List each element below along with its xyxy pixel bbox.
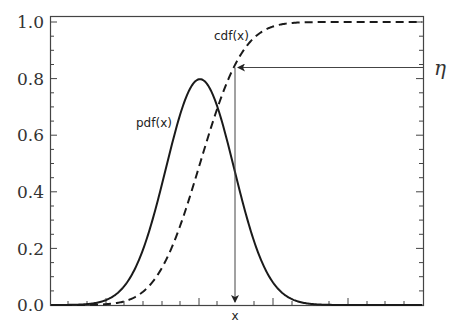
x-axis-ticks — [68, 298, 404, 305]
pdf-curve — [51, 79, 422, 305]
y-tick-label-0.2: 0.2 — [17, 239, 44, 259]
y-axis-ticks — [50, 22, 423, 305]
x-marker-label: x — [231, 309, 238, 323]
y-tick-label-0.6: 0.6 — [17, 125, 44, 145]
cdf-curve — [51, 22, 422, 305]
eta-label: η — [434, 56, 446, 80]
pdf-label: pdf(x) — [136, 116, 172, 130]
y-tick-label-0.8: 0.8 — [17, 69, 44, 89]
y-tick-label-0.0: 0.0 — [17, 295, 44, 315]
y-tick-label-0.4: 0.4 — [17, 182, 44, 202]
plot-frame — [51, 17, 424, 306]
cdf-label: cdf(x) — [214, 29, 249, 43]
y-tick-label-1.0: 1.0 — [17, 12, 44, 32]
pdf-cdf-chart: 0.0 0.2 0.4 0.6 0.8 1.0 pdf(x) cdf(x) η … — [0, 0, 463, 327]
